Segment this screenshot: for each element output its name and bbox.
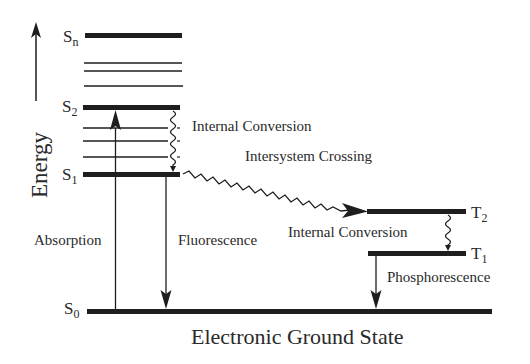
ground-state-label: Electronic Ground State	[191, 324, 404, 349]
label-s2: S2	[62, 97, 77, 119]
label-sn: Sn	[63, 27, 78, 49]
level-t1	[368, 251, 466, 256]
level-s1	[83, 172, 180, 177]
fluorescence-arrow	[161, 177, 172, 309]
intersystem-crossing-label: Intersystem Crossing	[245, 148, 373, 164]
phosphorescence-arrow	[371, 256, 382, 309]
energy-axis-arrow	[31, 22, 41, 101]
energy-axis-label: Energy	[27, 131, 52, 198]
internal-conversion-triplet-wavy-arrow	[445, 215, 451, 251]
jablonski-diagram: Energy Sn S2 S1 S0 T2 T1	[0, 0, 530, 364]
absorption-arrow	[110, 110, 121, 309]
fluorescence-label: Fluorescence	[178, 232, 257, 248]
label-s1: S1	[62, 165, 77, 187]
intersystem-crossing-zigzag-arrow	[183, 171, 368, 218]
level-t2	[367, 209, 466, 214]
phosphorescence-label: Phosphorescence	[387, 269, 491, 285]
label-s0: S0	[64, 299, 79, 321]
internal-conversion-singlet-wavy-arrow	[170, 111, 176, 172]
level-s2	[83, 105, 180, 110]
label-t2: T2	[471, 203, 487, 225]
level-s0	[87, 309, 492, 314]
label-t1: T1	[471, 244, 487, 266]
absorption-label: Absorption	[34, 232, 102, 248]
level-sn	[85, 33, 182, 38]
internal-conversion-triplet-label: Internal Conversion	[288, 224, 408, 240]
internal-conversion-singlet-label: Internal Conversion	[192, 118, 312, 134]
